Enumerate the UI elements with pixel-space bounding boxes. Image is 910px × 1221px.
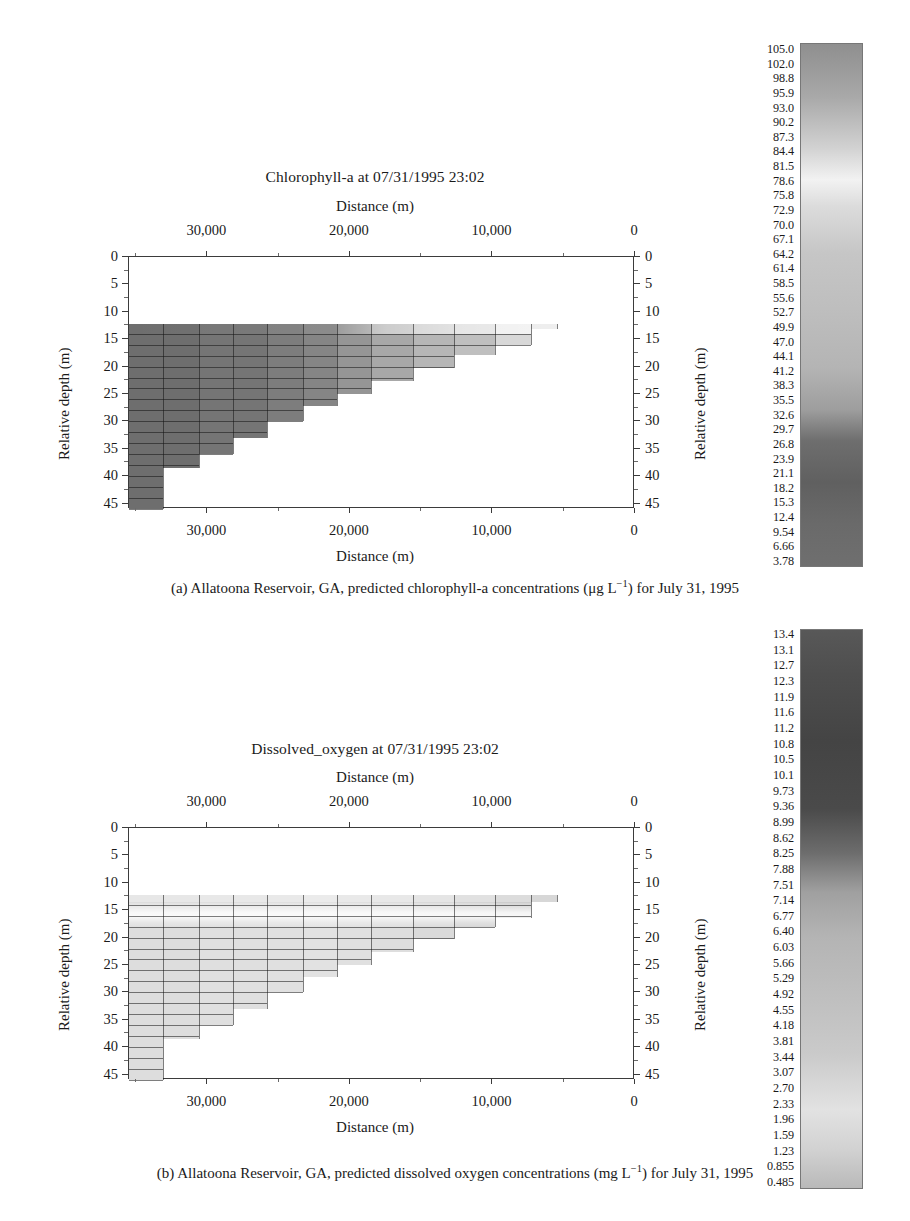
colorbar-tick-label: 6.66 <box>742 539 794 554</box>
colorbar-tick-label: 61.4 <box>742 261 794 276</box>
colorbar-tick-label: 93.0 <box>742 100 794 115</box>
colorbar-tick-label: 87.3 <box>742 129 794 144</box>
colorbar-tick-label: 8.99 <box>742 814 794 829</box>
colorbar-tick-label: 6.40 <box>742 924 794 939</box>
colorbar-tick-label: 9.54 <box>742 524 794 539</box>
colorbar-tick-label: 41.2 <box>742 363 794 378</box>
colorbar-tick-label: 1.23 <box>742 1143 794 1158</box>
colorbar-tick-label: 0.485 <box>742 1175 794 1190</box>
colorbar-tick-label: 21.1 <box>742 466 794 481</box>
colorbar-tick-label: 13.1 <box>742 642 794 657</box>
colorbar-tick-label: 52.7 <box>742 305 794 320</box>
colorbar-b: 13.413.112.712.311.911.611.210.810.510.1… <box>0 610 910 1221</box>
colorbar-tick-label: 4.92 <box>742 987 794 1002</box>
colorbar-tick-label: 102.0 <box>742 56 794 71</box>
colorbar-tick-label: 49.9 <box>742 319 794 334</box>
colorbar-tick-label: 1.96 <box>742 1112 794 1127</box>
colorbar-tick-label: 7.51 <box>742 877 794 892</box>
colorbar-tick-label: 44.1 <box>742 349 794 364</box>
colorbar-tick-label: 81.5 <box>742 159 794 174</box>
colorbar-tick-label: 12.4 <box>742 510 794 525</box>
colorbar-tick-label: 3.44 <box>742 1049 794 1064</box>
colorbar-tick-label: 105.0 <box>742 42 794 57</box>
colorbar-tick-label: 23.9 <box>742 451 794 466</box>
colorbar-tick-label: 32.6 <box>742 407 794 422</box>
colorbar-tick-label: 11.9 <box>742 689 794 704</box>
colorbar-tick-label: 6.77 <box>742 908 794 923</box>
colorbar-tick-label: 7.14 <box>742 893 794 908</box>
colorbar-tick-label: 64.2 <box>742 246 794 261</box>
colorbar-tick-label: 90.2 <box>742 115 794 130</box>
colorbar-tick-label: 6.03 <box>742 940 794 955</box>
colorbar-tick-label: 4.55 <box>742 1002 794 1017</box>
colorbar-tick-label: 67.1 <box>742 232 794 247</box>
colorbar-tick-label: 84.4 <box>742 144 794 159</box>
colorbar-tick-label: 5.29 <box>742 971 794 986</box>
colorbar-tick-label: 12.3 <box>742 673 794 688</box>
colorbar-tick-label: 2.33 <box>742 1096 794 1111</box>
colorbar-tick-label: 3.07 <box>742 1065 794 1080</box>
colorbar-tick-label: 12.7 <box>742 658 794 673</box>
colorbar-tick-label: 9.36 <box>742 799 794 814</box>
colorbar-tick-label: 55.6 <box>742 290 794 305</box>
colorbar-tick-label: 35.5 <box>742 393 794 408</box>
colorbar-tick-label: 8.62 <box>742 830 794 845</box>
colorbar-tick-label: 7.88 <box>742 861 794 876</box>
colorbar-tick-label: 29.7 <box>742 422 794 437</box>
colorbar-tick-label: 3.78 <box>742 554 794 569</box>
colorbar-a: 105.0102.098.895.993.090.287.384.481.578… <box>0 0 910 610</box>
colorbar-tick-label: 0.855 <box>742 1159 794 1174</box>
colorbar-tick-label: 38.3 <box>742 378 794 393</box>
colorbar-tick-label: 95.9 <box>742 85 794 100</box>
colorbar-tick-label: 8.25 <box>742 846 794 861</box>
colorbar-tick-label: 11.6 <box>742 705 794 720</box>
colorbar-tick-label: 13.4 <box>742 627 794 642</box>
colorbar-tick-label: 9.73 <box>742 783 794 798</box>
colorbar-tick-label: 15.3 <box>742 495 794 510</box>
colorbar-gradient <box>800 629 863 1189</box>
colorbar-tick-label: 5.66 <box>742 955 794 970</box>
colorbar-tick-label: 3.81 <box>742 1034 794 1049</box>
colorbar-tick-label: 2.70 <box>742 1081 794 1096</box>
colorbar-tick-label: 72.9 <box>742 202 794 217</box>
colorbar-tick-label: 98.8 <box>742 71 794 86</box>
colorbar-tick-label: 47.0 <box>742 334 794 349</box>
colorbar-gradient <box>800 43 863 567</box>
colorbar-tick-label: 78.6 <box>742 173 794 188</box>
colorbar-tick-label: 10.8 <box>742 736 794 751</box>
colorbar-tick-label: 1.59 <box>742 1128 794 1143</box>
colorbar-tick-label: 70.0 <box>742 217 794 232</box>
colorbar-tick-label: 10.1 <box>742 767 794 782</box>
figure-panel-a: Chlorophyll-a at 07/31/1995 23:02Distanc… <box>0 0 910 610</box>
colorbar-tick-label: 10.5 <box>742 752 794 767</box>
figure-panel-b: Dissolved_oxygen at 07/31/1995 23:02Dist… <box>0 610 910 1221</box>
colorbar-tick-label: 58.5 <box>742 276 794 291</box>
colorbar-tick-label: 26.8 <box>742 436 794 451</box>
colorbar-tick-label: 11.2 <box>742 720 794 735</box>
colorbar-tick-label: 4.18 <box>742 1018 794 1033</box>
colorbar-tick-label: 18.2 <box>742 480 794 495</box>
colorbar-tick-label: 75.8 <box>742 188 794 203</box>
